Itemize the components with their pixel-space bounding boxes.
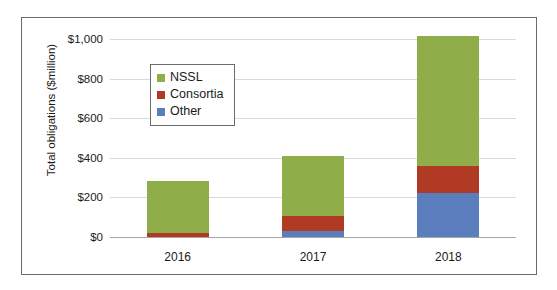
legend-item-consortia[interactable]: Consortia xyxy=(157,86,224,103)
x-axis-tick-label: 2017 xyxy=(300,250,327,264)
gridline xyxy=(110,237,516,238)
bar-segment-nssl[interactable] xyxy=(147,181,209,233)
legend-item-label: Consortia xyxy=(170,88,224,101)
x-axis-tick-label: 2016 xyxy=(164,250,191,264)
y-axis-tick-label: $600 xyxy=(77,112,103,124)
bar-segment-consortia[interactable] xyxy=(282,216,344,231)
bar-stack[interactable] xyxy=(282,156,344,237)
legend-item-label: Other xyxy=(170,105,201,118)
y-axis-tick-label: $0 xyxy=(90,231,103,243)
bar-segment-consortia[interactable] xyxy=(417,166,479,194)
legend-swatch-icon xyxy=(157,91,165,99)
bar-segment-nssl[interactable] xyxy=(282,156,344,216)
legend-swatch-icon xyxy=(157,108,165,116)
y-axis-title: Total obligations ($million) xyxy=(45,20,57,200)
y-axis-tick-label: $400 xyxy=(77,152,103,164)
bar-segment-other[interactable] xyxy=(282,231,344,237)
y-axis-tick-label: $800 xyxy=(77,73,103,85)
chart-figure-frame: Total obligations ($million) $1,000$800$… xyxy=(21,17,537,275)
bar-stack[interactable] xyxy=(417,36,479,237)
bar-segment-other[interactable] xyxy=(417,193,479,237)
y-axis-tick-label: $1,000 xyxy=(68,33,103,45)
legend-item-label: NSSL xyxy=(170,71,203,84)
bar-stack[interactable] xyxy=(147,181,209,237)
chart-legend: NSSLConsortiaOther xyxy=(150,64,235,126)
legend-item-other[interactable]: Other xyxy=(157,103,224,120)
legend-swatch-icon xyxy=(157,74,165,82)
bar-segment-consortia[interactable] xyxy=(147,233,209,237)
bar-group-2017: 2017 xyxy=(245,39,380,237)
x-axis-tick-label: 2018 xyxy=(435,250,462,264)
bar-group-2018: 2018 xyxy=(381,39,516,237)
bar-segment-nssl[interactable] xyxy=(417,36,479,166)
legend-item-nssl[interactable]: NSSL xyxy=(157,69,224,86)
y-axis-tick-label: $200 xyxy=(77,191,103,203)
